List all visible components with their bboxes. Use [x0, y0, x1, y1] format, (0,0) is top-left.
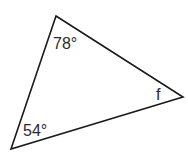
angle-right-label: f — [156, 86, 161, 103]
angle-bottom-left-label: 54° — [23, 122, 47, 139]
triangle-diagram: 78° 54° f — [0, 0, 188, 161]
angle-top-label: 78° — [53, 35, 77, 52]
